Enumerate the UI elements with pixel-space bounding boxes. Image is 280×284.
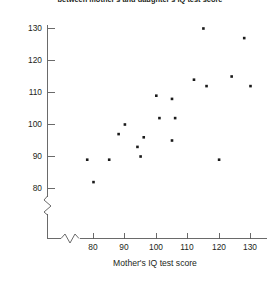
data-point [117, 133, 120, 136]
data-point [243, 37, 246, 40]
data-point [142, 136, 145, 139]
data-point [174, 117, 177, 120]
data-point [202, 27, 205, 30]
data-point [136, 146, 139, 149]
plot-area [0, 0, 280, 284]
y-axis-break-icon [44, 196, 51, 215]
data-point [139, 155, 142, 158]
data-point [218, 158, 221, 161]
data-point [249, 85, 252, 88]
data-point [193, 78, 196, 81]
data-point [124, 123, 127, 126]
data-point [205, 85, 208, 88]
data-point [158, 117, 161, 120]
x-tick-marks [94, 233, 251, 239]
data-point [92, 181, 95, 184]
data-point [86, 158, 89, 161]
data-point [171, 139, 174, 142]
data-point [108, 158, 111, 161]
scatter-chart: between mother's and daughter's IQ test … [0, 0, 280, 284]
x-axis-break-icon [61, 234, 79, 243]
data-point-group [86, 27, 252, 183]
y-tick-marks [48, 29, 55, 189]
data-point [171, 98, 174, 101]
data-point [155, 94, 158, 97]
data-point [230, 75, 233, 78]
